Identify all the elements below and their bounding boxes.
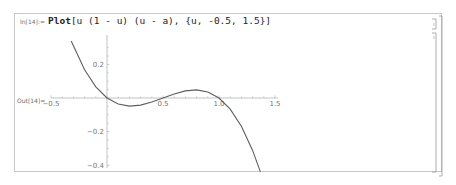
cell-brackets[interactable] — [0, 0, 456, 185]
group-cell-bracket[interactable] — [439, 16, 442, 176]
output-cell-bracket[interactable] — [432, 33, 436, 172]
